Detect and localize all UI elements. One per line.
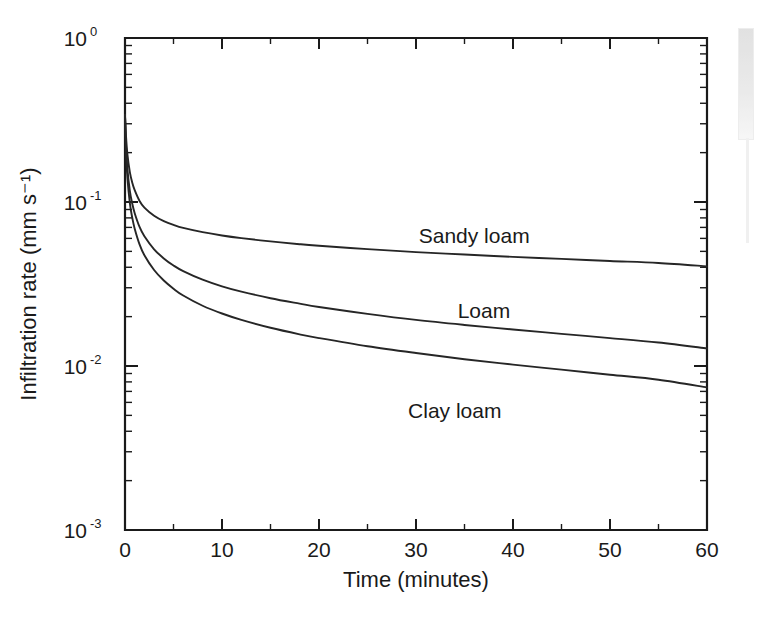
svg-text:-3: -3 <box>90 516 102 531</box>
x-tick-label: 50 <box>598 538 621 561</box>
x-axis-title: Time (minutes) <box>343 567 489 592</box>
svg-text:-1: -1 <box>90 188 102 203</box>
x-tick-label: 60 <box>695 538 718 561</box>
x-axis-tick-labels: 0102030405060 <box>119 538 719 561</box>
x-tick-label: 0 <box>119 538 131 561</box>
x-tick-label: 20 <box>307 538 330 561</box>
page-scrollbar-thumb[interactable] <box>738 28 754 140</box>
y-tick-label: 10-1 <box>64 188 102 214</box>
y-tick-label: 10-2 <box>64 352 102 378</box>
series-inline-labels: Sandy loamLoamClay loam <box>408 224 530 422</box>
series-label-clay-loam: Clay loam <box>408 399 501 422</box>
svg-text:10: 10 <box>64 519 87 542</box>
page-scrollbar-track[interactable] <box>746 138 749 243</box>
y-tick-label: 100 <box>64 24 98 50</box>
series-label-loam: Loam <box>458 299 511 322</box>
data-curves <box>125 115 707 388</box>
svg-text:0: 0 <box>90 24 97 39</box>
y-tick-label: 10-3 <box>64 516 102 542</box>
series-label-sandy-loam: Sandy loam <box>419 224 530 247</box>
curve-sandy-loam <box>125 115 707 267</box>
svg-text:10: 10 <box>64 27 87 50</box>
curve-loam <box>125 115 707 349</box>
svg-text:-2: -2 <box>90 352 102 367</box>
svg-text:10: 10 <box>64 191 87 214</box>
x-tick-label: 30 <box>404 538 427 561</box>
svg-text:10: 10 <box>64 355 87 378</box>
x-tick-label: 10 <box>210 538 233 561</box>
y-axis-title-text: Infiltration rate (mm s⁻¹) <box>16 167 41 400</box>
chart-canvas: 0102030405060 10010-110-210-3 Sandy loam… <box>0 0 758 632</box>
y-axis-tick-labels: 10010-110-210-3 <box>64 24 102 542</box>
x-tick-label: 40 <box>501 538 524 561</box>
y-axis-title: Infiltration rate (mm s⁻¹) <box>16 167 41 400</box>
infiltration-rate-figure: 0102030405060 10010-110-210-3 Sandy loam… <box>0 0 758 632</box>
